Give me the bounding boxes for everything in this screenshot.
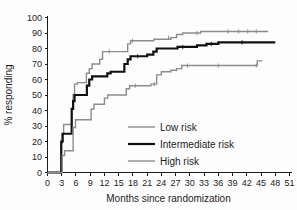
y-tick-label: 90	[32, 28, 42, 38]
x-tick-label: 3	[59, 178, 64, 188]
y-tick-label: 60	[32, 75, 42, 85]
y-tick-label: 10	[32, 152, 42, 162]
data-series-group	[48, 31, 276, 172]
x-axis-title: Months since randomization	[106, 193, 231, 204]
y-tick-label: 30	[32, 121, 42, 131]
x-tick-label: 45	[256, 178, 266, 188]
x-tick-label: 6	[73, 178, 78, 188]
x-tick-labels: 03691215182124273033363942454851	[45, 178, 295, 188]
y-tick-label: 40	[32, 106, 42, 116]
y-tick-label: 70	[32, 59, 42, 69]
y-tick-label: 20	[32, 137, 42, 147]
x-tick-label: 51	[284, 178, 294, 188]
x-tick-label: 18	[128, 178, 138, 188]
series-line-low-risk	[48, 31, 269, 172]
series-line-high-risk	[48, 61, 263, 173]
legend-label-intermediate-risk: Intermediate risk	[160, 139, 235, 150]
y-tick-label: 80	[32, 44, 42, 54]
x-tick-label: 33	[199, 178, 209, 188]
series-line-intermediate-risk	[48, 42, 276, 172]
x-tick-label: 39	[228, 178, 238, 188]
x-tick-label: 15	[114, 178, 124, 188]
x-tick-label: 27	[171, 178, 181, 188]
x-tick-label: 0	[45, 178, 50, 188]
x-tick-label: 9	[88, 178, 93, 188]
legend: Low riskIntermediate riskHigh risk	[128, 122, 235, 167]
y-tick-label: 100	[27, 13, 42, 23]
x-tick-label: 36	[213, 178, 223, 188]
x-tick-label: 12	[99, 178, 109, 188]
y-tick-label: 0	[37, 168, 42, 178]
chart-canvas: 03691215182124273033363942454851 0102030…	[0, 0, 297, 210]
legend-label-low-risk: Low risk	[160, 122, 198, 133]
y-tick-label: 50	[32, 90, 42, 100]
x-tick-label: 30	[185, 178, 195, 188]
kaplan-meier-chart: 03691215182124273033363942454851 0102030…	[0, 0, 297, 210]
y-axis-title: % responding	[3, 64, 14, 125]
x-tick-label: 21	[142, 178, 152, 188]
y-tick-labels: 0102030405060708090100	[27, 13, 42, 178]
x-tick-label: 24	[156, 178, 166, 188]
legend-label-high-risk: High risk	[160, 156, 200, 167]
x-tick-label: 48	[270, 178, 280, 188]
x-tick-label: 42	[242, 178, 252, 188]
